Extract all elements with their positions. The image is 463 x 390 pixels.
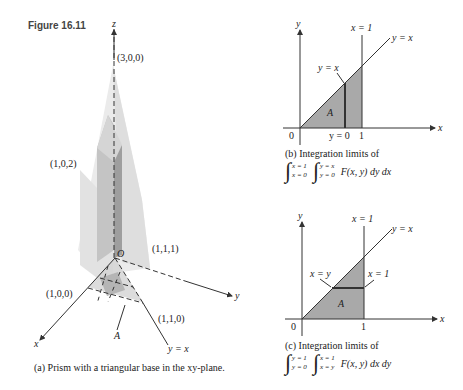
tick-1-label-c: 1	[361, 321, 366, 332]
integrand-c: F(x, y) dx dy	[341, 358, 392, 369]
integral-sign-icon: ∫	[285, 352, 291, 374]
x-eq-1-top-label-c: x = 1	[352, 213, 373, 224]
origin-label-c: 0	[291, 321, 296, 332]
outer-upper-limit-c: y = 1	[292, 354, 307, 363]
caption-c: (c) Integration limits of	[285, 340, 379, 351]
region-A-label-c: A	[338, 298, 344, 309]
x-eq-1-pointer-label-c: x = 1	[368, 268, 389, 279]
x-eq-y-pointer-label-c: x = y	[310, 268, 331, 279]
x-axis-label-c: x	[440, 313, 444, 324]
inner-upper-limit-c: x = 1	[320, 354, 335, 363]
y-eq-x-line-label-c: y = x	[392, 223, 413, 234]
inner-lower-limit-c: x = y	[320, 363, 335, 372]
integral-sign-icon: ∫	[313, 352, 319, 374]
integral-c: ∫ y = 1y = 0 ∫ x = 1x = y F(x, y) dx dy	[285, 352, 391, 374]
outer-lower-limit-c: y = 0	[292, 363, 307, 372]
region-plot-c	[0, 0, 463, 390]
y-axis-label-c: y	[298, 210, 302, 221]
